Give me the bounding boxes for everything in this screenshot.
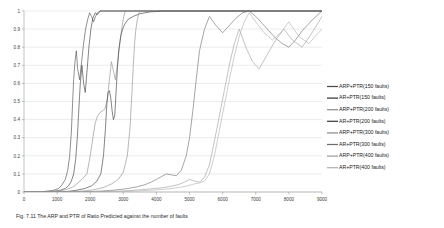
x-tick-label: 6000	[218, 197, 229, 202]
series-line	[24, 16, 322, 192]
x-tick-label: 2000	[85, 197, 96, 202]
x-tick-label: 5000	[184, 197, 195, 202]
legend-label: AR+PTR(300 faults)	[339, 141, 386, 147]
legend-label: AR+PTR(400 faults)	[339, 164, 386, 170]
x-tick-label: 7000	[251, 197, 262, 202]
figure-container: 00.10.20.30.40.50.60.70.80.91 0100020003…	[0, 0, 444, 228]
y-tick-label: 0.1	[14, 172, 21, 177]
x-tick-label: 1000	[52, 197, 63, 202]
x-tick-label: 0	[23, 197, 26, 202]
x-tick-label: 3000	[118, 197, 129, 202]
figure-caption: Fig. 7.11 The ARP and PTR of Ratio Predi…	[16, 213, 436, 220]
y-tick-label: 0.6	[14, 81, 21, 86]
y-tick-label: 0.9	[14, 27, 21, 32]
y-tick-label: 0.2	[14, 154, 21, 159]
x-tick-label: 4000	[151, 197, 162, 202]
legend-label: AR+PTR(150 faults)	[339, 94, 386, 100]
x-tick-label: 9000	[317, 197, 328, 202]
legend-label: ARP+PTR(400 faults)	[339, 152, 389, 158]
y-tick-label: 1	[17, 9, 20, 14]
x-axis-tick-labels: 0100020003000400050006000700080009000	[23, 192, 328, 202]
y-tick-label: 0.8	[14, 45, 21, 50]
legend-label: ARP+PTR(200 faults)	[339, 106, 389, 112]
y-tick-label: 0.5	[14, 99, 21, 104]
legend-label: ARP+PTR(300 faults)	[339, 129, 389, 135]
y-tick-label: 0.3	[14, 135, 21, 140]
y-tick-label: 0	[17, 190, 20, 195]
y-tick-label: 0.7	[14, 63, 21, 68]
line-chart: 00.10.20.30.40.50.60.70.80.91 0100020003…	[0, 0, 444, 228]
chart-legend: ARP+PTR(150 faults)AR+PTR(150 faults)ARP…	[327, 83, 389, 170]
x-tick-label: 8000	[284, 197, 295, 202]
legend-label: ARP+PTR(150 faults)	[339, 83, 389, 89]
y-tick-label: 0.4	[14, 117, 21, 122]
y-axis-tick-labels: 00.10.20.30.40.50.60.70.80.91	[14, 9, 24, 195]
legend-label: AR+PTR(200 faults)	[339, 118, 386, 124]
